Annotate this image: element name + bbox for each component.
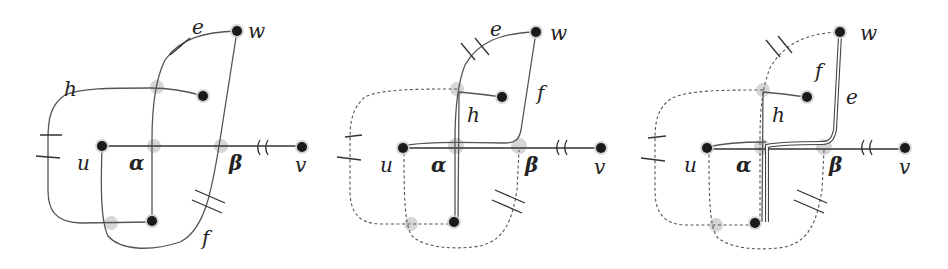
label-e: e: [490, 17, 502, 41]
diagram-canvas: e w h u α β v f e w h: [0, 0, 948, 269]
edge-h: [48, 88, 203, 223]
edge-h-rerouted: [458, 92, 502, 222]
label-v: v: [594, 155, 606, 179]
edge-e-dashed: [760, 32, 840, 222]
node-v: [297, 142, 307, 152]
label-f: f: [535, 81, 548, 105]
label-alpha: α: [431, 153, 446, 177]
node-w: [835, 27, 845, 37]
label-u: u: [380, 153, 393, 177]
label-e: e: [846, 85, 858, 109]
label-v: v: [295, 153, 307, 177]
label-alpha: α: [129, 151, 144, 175]
tick-f: [794, 190, 827, 213]
panel-1: e w h u α β v f: [36, 15, 309, 250]
edge-ef-rerouted-inner: [767, 35, 840, 222]
label-h: h: [772, 103, 785, 127]
label-v: v: [899, 155, 911, 179]
tick-v: [862, 140, 872, 155]
edge-e: [152, 31, 237, 221]
label-f: f: [813, 59, 826, 83]
label-f: f: [200, 226, 213, 250]
edge-ef-rerouted-outer: [767, 35, 840, 222]
tick-e: [170, 38, 190, 55]
panel-2: e w h f u α β v: [337, 17, 608, 248]
node-v: [596, 143, 606, 153]
tick-e: [461, 38, 489, 60]
tick-h: [641, 136, 666, 161]
label-beta: β: [228, 151, 242, 175]
node-h-end: [497, 92, 507, 102]
node-bottom: [750, 218, 760, 228]
edge-f: [101, 31, 237, 248]
node-u: [398, 143, 408, 153]
edge-e: [455, 32, 536, 222]
label-h: h: [64, 77, 77, 101]
label-beta: β: [524, 153, 538, 177]
label-w: w: [550, 21, 567, 45]
crossing-halo-alpha: [448, 138, 464, 154]
tick-v: [258, 140, 268, 155]
tick-f: [492, 190, 525, 213]
node-w: [232, 26, 242, 36]
label-w: w: [248, 19, 265, 43]
label-e: e: [192, 15, 204, 39]
graph-figure: e w h u α β v f e w h: [0, 0, 948, 269]
panel-3: w f e h u α β v: [641, 21, 912, 249]
label-u: u: [684, 153, 697, 177]
edge-f-dashed: [404, 148, 519, 248]
node-bottom: [147, 216, 157, 226]
label-alpha: α: [736, 153, 751, 177]
node-v: [900, 143, 910, 153]
node-bottom: [449, 217, 459, 227]
label-beta: β: [828, 153, 842, 177]
node-h-end: [802, 92, 812, 102]
label-u: u: [77, 151, 90, 175]
node-w: [531, 27, 541, 37]
tick-f: [192, 190, 225, 213]
node-h-end: [198, 91, 208, 101]
label-h: h: [467, 103, 480, 127]
node-u: [702, 143, 712, 153]
tick-h: [36, 135, 62, 158]
node-u: [97, 141, 107, 151]
label-w: w: [860, 21, 877, 45]
